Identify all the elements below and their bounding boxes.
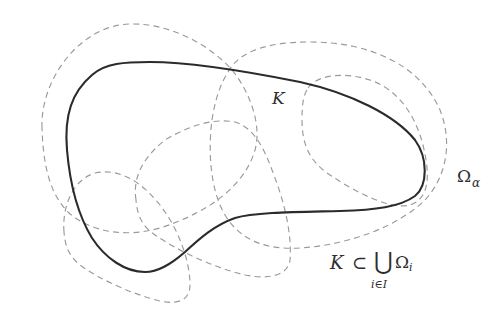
omega-alpha-label: Ωα <box>457 168 480 185</box>
omega-alpha-subscript: α <box>472 176 480 190</box>
set-K-label: K <box>272 90 285 107</box>
diagram-canvas <box>0 0 504 322</box>
formula-omega-subscript: i <box>409 261 413 274</box>
cover-set-middle <box>135 121 290 277</box>
compact-set-cover-diagram: K Ωα K ⊂ ⋃ Ω i i∈I <box>0 0 504 322</box>
cover-set-top-left <box>42 24 257 233</box>
cover-set-omega-alpha <box>302 75 427 206</box>
formula-union-index: i∈I <box>371 278 387 291</box>
formula-subset-symbol: ⊂ <box>352 252 367 273</box>
omega-alpha-symbol: Ω <box>457 166 471 186</box>
formula-lhs: K <box>330 252 343 273</box>
formula-omega: Ω <box>395 252 409 272</box>
set-K-boundary <box>66 62 424 272</box>
cover-set-bottom-left <box>64 172 190 302</box>
formula-union-operator: ⋃ <box>374 247 393 275</box>
